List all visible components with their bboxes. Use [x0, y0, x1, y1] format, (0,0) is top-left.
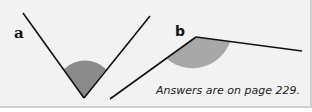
angle-b-sector: [167, 37, 230, 68]
figure-label-a: a: [14, 24, 24, 42]
answer-reference: Answers are on page 229.: [156, 84, 300, 97]
exercise-panel: a b Answers are on page 229.: [0, 0, 312, 108]
angle-a-right-arm: [84, 16, 150, 98]
angle-a: [23, 13, 150, 98]
angle-a-left-arm: [23, 13, 84, 98]
figure-label-b: b: [175, 23, 185, 39]
